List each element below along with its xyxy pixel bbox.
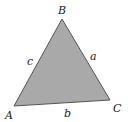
vertex-label-a: A bbox=[4, 109, 13, 122]
triangle-diagram: B A C a b c bbox=[0, 0, 128, 122]
vertex-label-b: B bbox=[57, 4, 66, 17]
side-label-a: a bbox=[90, 50, 97, 63]
vertex-label-c: C bbox=[113, 102, 122, 115]
side-label-c: c bbox=[27, 55, 33, 68]
side-label-b: b bbox=[64, 107, 71, 120]
